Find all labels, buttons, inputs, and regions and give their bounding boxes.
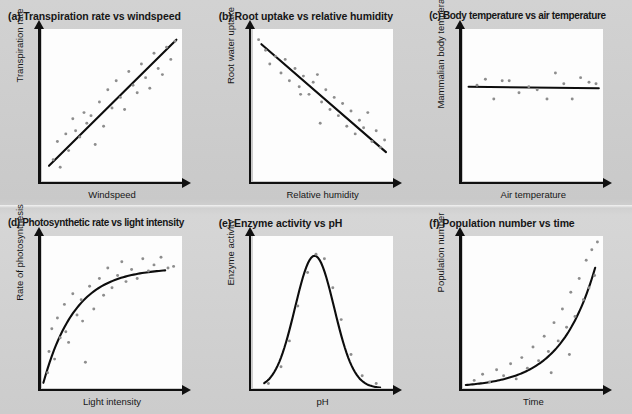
data-point bbox=[360, 374, 363, 377]
data-point bbox=[279, 365, 282, 368]
data-point bbox=[85, 122, 88, 125]
panel-f-x-axis bbox=[459, 389, 607, 392]
panel-e-x-axis bbox=[249, 389, 397, 392]
panel-f-trend-line bbox=[466, 268, 595, 385]
panel-f-plot-area bbox=[463, 236, 603, 388]
data-point bbox=[324, 88, 327, 91]
data-point bbox=[274, 55, 277, 58]
data-point bbox=[94, 143, 97, 146]
data-point bbox=[481, 373, 484, 376]
panel-d-trend-line bbox=[43, 270, 165, 382]
panel-d-y-axis-arrow-icon bbox=[34, 227, 44, 236]
panel-c-y-axis bbox=[459, 26, 462, 184]
panel-b-trend-line bbox=[261, 44, 386, 152]
data-point bbox=[264, 49, 267, 52]
panel-c: (c) Body temperature vs air temperature … bbox=[421, 0, 632, 207]
data-point bbox=[153, 263, 156, 266]
data-point bbox=[127, 70, 130, 73]
data-point bbox=[125, 280, 128, 283]
data-point bbox=[53, 358, 56, 361]
panel-c-y-axis-label: Mammalian body temperature bbox=[435, 0, 446, 111]
data-point bbox=[288, 339, 291, 342]
data-point bbox=[314, 253, 317, 256]
panel-b-x-axis bbox=[249, 182, 397, 185]
data-point bbox=[345, 125, 348, 128]
data-point bbox=[120, 260, 123, 263]
data-point bbox=[508, 79, 511, 82]
data-point bbox=[148, 87, 151, 90]
panel-b-y-axis-label: Root water uptake bbox=[224, 0, 235, 111]
data-point bbox=[337, 114, 340, 117]
data-point bbox=[102, 294, 105, 297]
data-point bbox=[165, 46, 168, 49]
data-point bbox=[64, 132, 67, 135]
data-point bbox=[81, 320, 84, 323]
data-point bbox=[172, 265, 175, 268]
data-point bbox=[116, 274, 119, 277]
panel-e-x-axis-arrow-icon bbox=[393, 385, 402, 395]
data-point bbox=[323, 257, 326, 260]
data-point bbox=[484, 78, 487, 81]
data-point bbox=[59, 336, 62, 339]
data-point bbox=[537, 359, 540, 362]
data-point bbox=[509, 362, 512, 365]
data-point bbox=[268, 62, 271, 65]
panel-e: (e) Enzyme activity vs pH Enzyme activit… bbox=[211, 207, 422, 414]
data-point bbox=[578, 277, 581, 280]
data-point bbox=[547, 350, 550, 353]
data-point bbox=[331, 286, 334, 289]
panel-b-chart bbox=[253, 29, 393, 181]
panel-d-chart bbox=[42, 236, 182, 388]
data-point bbox=[157, 67, 160, 70]
data-point bbox=[88, 285, 91, 288]
data-point bbox=[106, 266, 109, 269]
panel-b-x-axis-label: Relative humidity bbox=[249, 189, 397, 200]
data-point bbox=[52, 158, 55, 161]
panel-c-chart bbox=[463, 29, 603, 181]
panel-a-y-axis-arrow-icon bbox=[34, 20, 44, 29]
data-point bbox=[339, 318, 342, 321]
data-point bbox=[56, 317, 59, 320]
data-point bbox=[119, 96, 122, 99]
data-point bbox=[318, 122, 321, 125]
data-point bbox=[92, 307, 95, 310]
data-point bbox=[328, 108, 331, 111]
data-point bbox=[302, 75, 305, 78]
panel-c-trend-line bbox=[469, 87, 599, 89]
data-point bbox=[588, 81, 591, 84]
panel-d-plot-area bbox=[42, 236, 182, 388]
data-point bbox=[153, 52, 156, 55]
data-point bbox=[349, 353, 352, 356]
panel-e-y-axis-label: Enzyme activity bbox=[224, 188, 235, 318]
data-point bbox=[374, 382, 377, 385]
data-point bbox=[557, 339, 560, 342]
data-point bbox=[80, 298, 83, 301]
data-point bbox=[111, 107, 114, 110]
panel-e-chart bbox=[253, 236, 393, 388]
data-point bbox=[561, 307, 564, 310]
data-point bbox=[383, 138, 386, 141]
data-point bbox=[74, 129, 77, 132]
panel-f-y-axis bbox=[459, 233, 462, 391]
data-point bbox=[147, 269, 150, 272]
panel-f-chart bbox=[463, 236, 603, 388]
data-point bbox=[593, 274, 596, 277]
data-point bbox=[306, 271, 309, 274]
data-point bbox=[169, 58, 172, 61]
data-point bbox=[349, 110, 352, 113]
data-point bbox=[366, 111, 369, 114]
data-point bbox=[536, 88, 539, 91]
panel-f-y-axis-arrow-icon bbox=[455, 227, 465, 236]
data-point bbox=[50, 327, 53, 330]
data-point bbox=[515, 377, 518, 380]
panel-f-x-axis-label: Time bbox=[459, 396, 607, 407]
panel-b: (b) Root uptake vs relative humidity Roo… bbox=[211, 0, 422, 207]
data-point bbox=[78, 135, 81, 138]
data-point bbox=[473, 379, 476, 382]
data-point bbox=[362, 126, 365, 129]
panel-d-y-axis bbox=[38, 233, 41, 391]
data-point bbox=[374, 129, 377, 132]
data-point bbox=[257, 38, 260, 41]
data-point bbox=[98, 277, 101, 280]
data-point bbox=[518, 91, 521, 94]
